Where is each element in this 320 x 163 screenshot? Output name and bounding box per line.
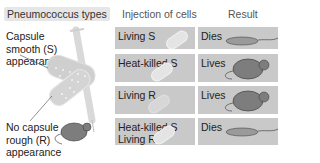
result-cell: Dies (198, 27, 278, 49)
injection-cell: Heat-killed S Living R (115, 118, 195, 145)
mouse-icon (222, 55, 282, 81)
result-cell: Dies (198, 118, 278, 145)
result-text: Dies (201, 121, 222, 133)
mouse-icon (222, 87, 282, 113)
injection-text: Living S (118, 30, 155, 42)
injection-text: Living R (118, 89, 156, 101)
result-cell: Lives (198, 86, 278, 114)
mouse-icon (220, 29, 280, 51)
result-text: Dies (201, 30, 222, 42)
injection-cell: Living S (115, 27, 195, 49)
result-cell: Lives (198, 54, 278, 82)
mouse-icon (55, 123, 91, 144)
mouse-icon (220, 120, 280, 142)
injection-cell: Living R (115, 86, 195, 114)
injection-cell: Heat-killed S (115, 54, 195, 82)
bacterium-icon (164, 28, 191, 52)
